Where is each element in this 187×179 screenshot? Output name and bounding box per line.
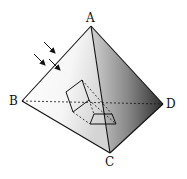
arrow-icon — [34, 54, 45, 65]
vertex-label-b: B — [9, 95, 18, 107]
light-arrows — [34, 42, 60, 70]
vertex-label-a: A — [86, 12, 95, 24]
tetrahedron-diagram — [0, 0, 187, 179]
vertex-label-c: C — [105, 156, 114, 168]
arrow-icon — [44, 42, 55, 53]
vertex-label-d: D — [166, 98, 176, 110]
